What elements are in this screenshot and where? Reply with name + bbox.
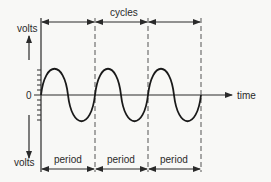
volts-bottom-label: volts (14, 157, 35, 168)
waveform-diagram: cycles volts 0 time volts period period … (0, 0, 271, 182)
time-label: time (237, 90, 256, 101)
period-label-1: period (54, 154, 82, 165)
origin-label: 0 (26, 90, 32, 101)
period-label-2: period (107, 154, 135, 165)
volts-top-label: volts (17, 23, 38, 34)
period-label-3: period (160, 154, 188, 165)
cycles-label: cycles (110, 7, 138, 18)
